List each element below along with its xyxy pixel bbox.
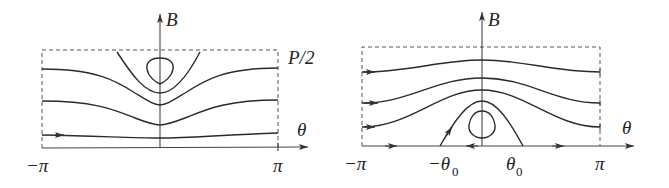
left-theta-axis [42,147,308,148]
right-phase-portrait: B θ −π π −θ 0 θ 0 [344,9,634,179]
right-orbit-third [362,90,600,127]
right-orbit-top [362,60,600,72]
right-dashed-boundary [362,47,600,146]
left-neg-pi-label: −π [26,155,49,176]
left-pi-label: π [273,155,283,176]
phase-portraits: B θ P/2 −π π B θ [0,0,669,188]
right-theta0-label: θ [506,153,515,174]
left-theta-label: θ [297,119,306,140]
right-neg-pi-label: −π [344,153,367,174]
left-p-half-label: P/2 [287,47,315,68]
right-theta-label: θ [622,117,631,138]
right-neg-theta0-subscript: 0 [452,164,459,179]
left-phase-portrait: B θ P/2 −π π [26,9,315,176]
right-separatrix-arrow-icon [446,127,452,136]
right-b-label: B [488,9,500,30]
right-neg-theta0-label: −θ [428,153,450,174]
right-theta0-subscript: 0 [516,164,523,179]
right-pi-label: π [595,153,605,174]
left-b-label: B [166,9,178,30]
